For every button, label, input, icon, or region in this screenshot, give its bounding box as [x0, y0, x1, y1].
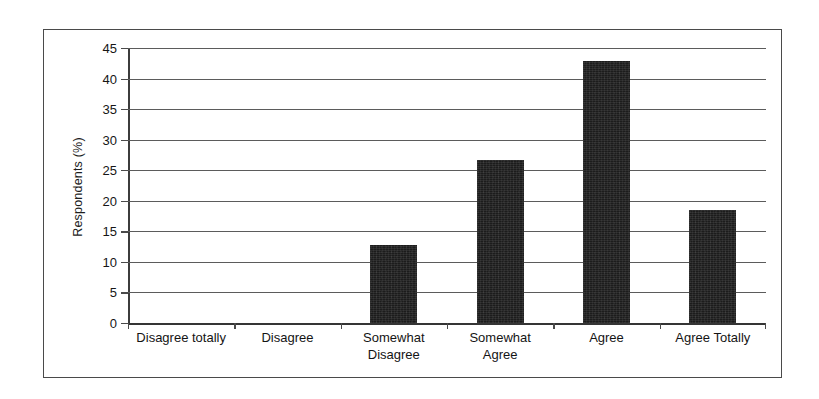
y-tick-45: [121, 48, 128, 49]
x-label-somewhat-disagree: Somewhat Disagree: [341, 330, 447, 363]
x-tick-2: [341, 323, 342, 329]
y-tick-35: [121, 109, 128, 110]
x-label-agree-totally: Agree Totally: [660, 330, 766, 347]
bar-somewhat-agree: [477, 160, 524, 323]
y-tick-label-40: 40: [103, 71, 117, 86]
y-tick-0: [121, 323, 128, 324]
y-tick-25: [121, 170, 128, 171]
x-label-line1: Disagree totally: [136, 330, 226, 345]
y-tick-15: [121, 231, 128, 232]
y-tick-label-15: 15: [103, 224, 117, 239]
x-label-line1: Agree Totally: [675, 330, 750, 345]
x-label-somewhat-agree: Somewhat Agree: [447, 330, 553, 363]
x-label-line1: Disagree: [261, 330, 313, 345]
x-tick-1: [234, 323, 235, 329]
y-tick-label-5: 5: [110, 285, 117, 300]
chart-figure-frame: Respondents (%) 45 40 35 30 2: [43, 29, 782, 378]
y-tick-5: [121, 292, 128, 293]
bar-agree: [583, 61, 630, 323]
x-label-line1: Somewhat: [469, 330, 530, 345]
y-tick-label-30: 30: [103, 132, 117, 147]
y-axis-title: Respondents (%): [71, 42, 91, 332]
x-tick-4: [553, 323, 554, 329]
x-label-disagree-totally: Disagree totally: [128, 330, 234, 347]
x-label-agree: Agree: [553, 330, 659, 347]
x-label-line1: Somewhat: [363, 330, 424, 345]
x-label-line2: Agree: [447, 347, 553, 364]
plot-area: 45 40 35 30 25 20 15 10 5 0: [128, 48, 766, 323]
x-label-disagree: Disagree: [234, 330, 340, 347]
y-tick-30: [121, 140, 128, 141]
y-tick-20: [121, 201, 128, 202]
bars-group: [128, 48, 766, 323]
x-tick-3: [447, 323, 448, 329]
y-tick-label-10: 10: [103, 254, 117, 269]
y-tick-40: [121, 79, 128, 80]
y-tick-label-25: 25: [103, 163, 117, 178]
y-tick-label-20: 20: [103, 193, 117, 208]
x-label-line2: Disagree: [341, 347, 447, 364]
x-tick-0: [128, 323, 129, 329]
x-label-line1: Agree: [589, 330, 624, 345]
y-tick-label-0: 0: [110, 316, 117, 331]
x-tick-5: [660, 323, 661, 329]
x-axis-labels-group: Disagree totally Disagree Somewhat Disag…: [128, 330, 766, 378]
x-tick-6: [765, 323, 766, 329]
y-tick-label-45: 45: [103, 41, 117, 56]
bar-agree-totally: [689, 210, 736, 323]
y-tick-10: [121, 262, 128, 263]
y-tick-label-35: 35: [103, 102, 117, 117]
bar-somewhat-disagree: [370, 245, 417, 323]
